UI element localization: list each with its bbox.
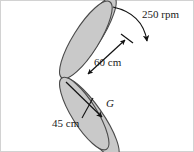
rotation-speed-label: 250 rpm: [142, 9, 179, 20]
rotor-diagram-figure: 250 rpm 60 cm 45 cm G: [0, 0, 194, 152]
blade-radius-label: 60 cm: [94, 57, 121, 68]
diagram-canvas: [0, 0, 194, 152]
center-of-gravity-label: G: [106, 98, 114, 109]
cg-radius-label: 45 cm: [52, 118, 79, 129]
